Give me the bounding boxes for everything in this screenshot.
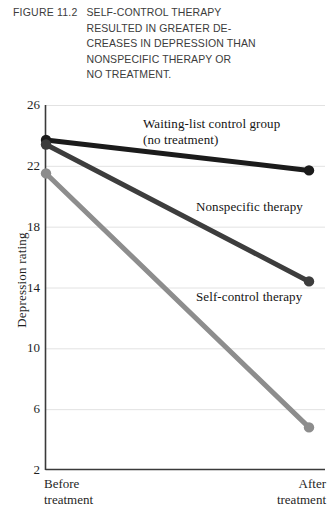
data-point-marker bbox=[304, 276, 314, 286]
series-annotation-self-control-therapy: Self-control therapy bbox=[196, 289, 302, 305]
data-point-marker bbox=[304, 422, 314, 432]
caption-line: SELF-CONTROL THERAPY bbox=[86, 5, 264, 21]
x-tick-line2: treatment bbox=[277, 492, 326, 508]
caption-line: NO TREATMENT. bbox=[86, 67, 264, 83]
data-point-marker bbox=[41, 168, 51, 178]
figure-caption-text: SELF-CONTROL THERAPY RESULTED IN GREATER… bbox=[86, 5, 264, 83]
x-axis-tick-before: Before treatment bbox=[44, 476, 93, 508]
x-axis-tick-after: After treatment bbox=[277, 476, 326, 508]
annotation-line: (no treatment) bbox=[143, 132, 280, 148]
data-series-layer bbox=[41, 135, 314, 433]
annotation-line: Nonspecific therapy bbox=[196, 199, 303, 215]
annotation-line: Waiting-list control group bbox=[143, 116, 280, 132]
caption-line: CREASES IN DEPRESSION THAN bbox=[86, 36, 264, 52]
caption-line: RESULTED IN GREATER DE- bbox=[86, 21, 264, 37]
x-tick-line2: treatment bbox=[44, 492, 93, 508]
series-annotation-waiting-list: Waiting-list control group (no treatment… bbox=[143, 116, 280, 148]
data-point-marker bbox=[41, 139, 51, 149]
figure-caption: FIGURE 11.2 SELF-CONTROL THERAPY RESULTE… bbox=[0, 0, 332, 92]
x-tick-line1: Before bbox=[44, 476, 93, 492]
data-point-marker bbox=[304, 165, 314, 175]
annotation-line: Self-control therapy bbox=[196, 289, 302, 305]
grid-lines bbox=[46, 106, 325, 410]
figure-number-label: FIGURE 11.2 bbox=[0, 5, 86, 21]
x-tick-line1: After bbox=[277, 476, 326, 492]
series-annotation-nonspecific-therapy: Nonspecific therapy bbox=[196, 199, 303, 215]
caption-line: NONSPECIFIC THERAPY OR bbox=[86, 52, 264, 68]
line-chart: Depression rating 262218141062 Before tr… bbox=[0, 92, 332, 512]
